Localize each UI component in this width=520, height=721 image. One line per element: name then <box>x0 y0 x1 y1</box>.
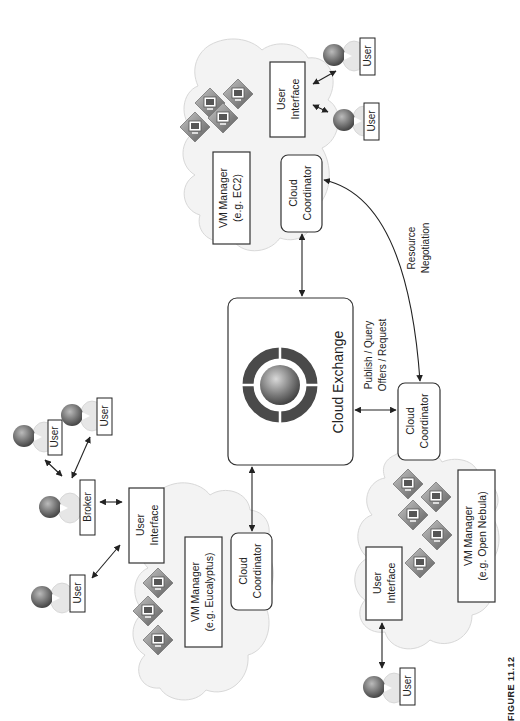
user-interface-ec2: User Interface <box>270 62 305 137</box>
arrow-ui-user-eucalyptus <box>92 545 120 578</box>
broker-icon <box>39 493 82 523</box>
svg-text:Coordinator: Coordinator <box>301 165 313 220</box>
svg-text:User: User <box>362 45 373 67</box>
vm-manager-ec2: VM Manager (e.g. EC2) <box>213 152 250 244</box>
svg-text:User: User <box>99 405 110 427</box>
user-ec2-2: User <box>333 103 379 140</box>
svg-text:VM Manager: VM Manager <box>462 505 474 566</box>
svg-text:User: User <box>275 87 287 110</box>
cloud-coordinator-ec2: Cloud Coordinator <box>281 155 322 232</box>
svg-text:User: User <box>49 426 60 448</box>
user-eucalyptus-3: User <box>31 575 85 613</box>
svg-text:Coordinator: Coordinator <box>251 543 263 598</box>
svg-text:Interface: Interface <box>148 504 160 545</box>
svg-text:User: User <box>366 110 377 132</box>
cloud-coordinator-eucalyptus: Cloud Coordinator <box>231 533 272 610</box>
user-eucalyptus-1: User <box>13 420 62 455</box>
svg-text:Interface: Interface <box>385 562 397 603</box>
publish-query-label: Publish / Query <box>363 321 374 389</box>
cloud-federation-diagram: Cloud Exchange Publish / Query Offers / … <box>0 0 520 721</box>
svg-text:User: User <box>134 513 146 536</box>
vm-manager-opennebula: VM Manager (e.g. Open Nebula) <box>458 470 495 602</box>
svg-text:(e.g. EC2): (e.g. EC2) <box>231 174 243 222</box>
offers-request-label: Offers / Request <box>377 318 388 391</box>
svg-text:(e.g. Eucalyptus): (e.g. Eucalyptus) <box>203 553 215 632</box>
cloud-coordinator-opennebula: Cloud Coordinator <box>398 383 440 460</box>
svg-text:Cloud: Cloud <box>287 179 299 207</box>
svg-text:VM Manager: VM Manager <box>217 167 229 228</box>
svg-text:Coordinator: Coordinator <box>418 393 430 448</box>
user-interface-eucalyptus: User Interface <box>129 488 164 563</box>
vm-manager-eucalyptus: VM Manager (e.g. Eucalyptus) <box>185 537 222 647</box>
svg-text:Interface: Interface <box>289 78 301 119</box>
user-eucalyptus-2: User <box>61 398 112 435</box>
resource-negotiation-label-1: Resource <box>406 226 417 269</box>
broker: Broker <box>39 480 95 535</box>
figure-caption: FIGURE 11.12 <box>506 656 516 721</box>
svg-text:(e.g. Open Nebula): (e.g. Open Nebula) <box>476 491 488 580</box>
arrow-broker-user-2 <box>72 437 90 478</box>
svg-text:User: User <box>371 571 383 594</box>
user-interface-opennebula: User Interface <box>366 547 402 620</box>
svg-text:Cloud: Cloud <box>404 407 416 435</box>
svg-text:Broker: Broker <box>82 492 93 522</box>
user-icon <box>31 583 74 613</box>
svg-text:Cloud: Cloud <box>237 557 249 585</box>
cloud-exchange-box: Cloud Exchange <box>228 298 353 465</box>
svg-text:User: User <box>72 582 83 604</box>
svg-text:VM Manager: VM Manager <box>189 561 201 622</box>
cloud-exchange-title: Cloud Exchange <box>330 330 346 433</box>
user-opennebula-1: User <box>363 668 415 705</box>
resource-negotiation-label-2: Negotiation <box>420 223 431 274</box>
svg-text:User: User <box>402 675 413 697</box>
arrow-broker-user-1 <box>45 460 62 476</box>
